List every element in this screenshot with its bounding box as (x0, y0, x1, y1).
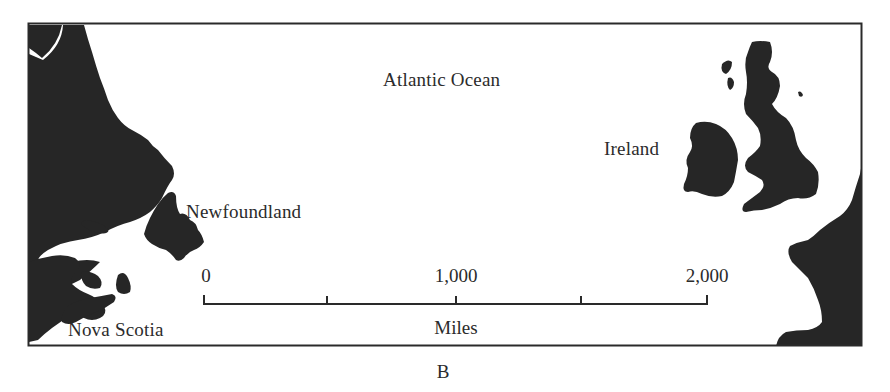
ireland-island (684, 122, 739, 197)
orkney-island (798, 91, 803, 96)
scale-bar (204, 295, 707, 305)
nova-scotia-label: Nova Scotia (68, 320, 164, 339)
pei-island (82, 272, 102, 289)
newfoundland-label: Newfoundland (186, 202, 301, 221)
ireland-label: Ireland (604, 139, 659, 158)
figure-caption: B (437, 362, 450, 381)
scale-label-2000: 2,000 (686, 266, 729, 285)
map-figure: Atlantic Ocean Ireland Newfoundland Nova… (0, 0, 890, 392)
scale-label-zero: 0 (201, 266, 211, 285)
ocean-label: Atlantic Ocean (383, 70, 500, 89)
scale-label-1000: 1,000 (435, 266, 478, 285)
scale-unit-label: Miles (434, 318, 477, 337)
cape-breton-island (116, 273, 131, 294)
hebrides-island-south (727, 78, 734, 91)
great-britain-island (742, 41, 818, 212)
hebrides-island (722, 60, 733, 74)
